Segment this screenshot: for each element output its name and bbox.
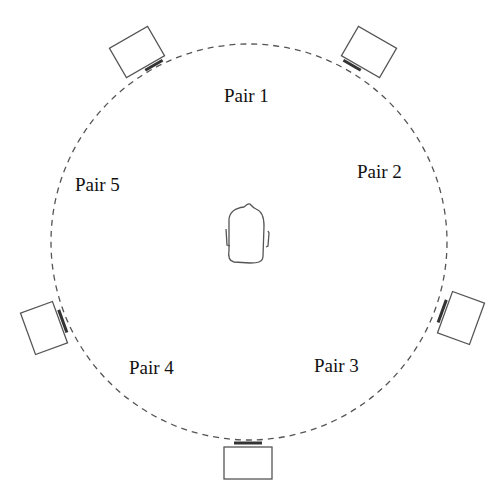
speaker-right-icon [435,290,485,344]
pair-2-label: Pair 2 [357,161,402,182]
speaker-layout-diagram: Pair 1 Pair 2 Pair 3 Pair 4 Pair 5 [0,0,498,500]
speaker-top-right-icon [340,26,397,80]
listener-head-icon [226,204,269,263]
speaker-top-left-icon [109,26,166,80]
pair-1-label: Pair 1 [224,85,269,106]
speaker-bottom-icon [224,443,272,479]
pair-4-label: Pair 4 [129,357,174,378]
pair-3-label: Pair 3 [314,355,359,376]
pair-5-label: Pair 5 [75,174,120,195]
